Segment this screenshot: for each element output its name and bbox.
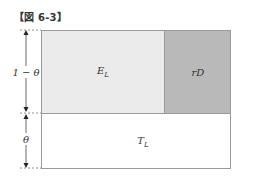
label-theta: θ	[22, 134, 30, 145]
dimension-arrows	[0, 0, 260, 177]
label-one-minus-theta: 1 − θ	[11, 67, 40, 78]
